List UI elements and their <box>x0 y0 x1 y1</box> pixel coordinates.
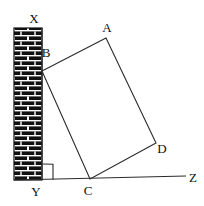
label-d: D <box>157 141 166 156</box>
label-y: Y <box>31 184 41 199</box>
figure-canvas: X B A D C Y Z <box>0 0 204 206</box>
label-z: Z <box>189 170 197 185</box>
label-c: C <box>84 183 93 198</box>
label-b: B <box>42 45 51 60</box>
geometry-diagram: X B A D C Y Z <box>0 0 204 206</box>
label-a: A <box>102 20 112 35</box>
leaning-rectangle <box>42 38 156 179</box>
right-angle-mark <box>43 164 53 180</box>
brick-wall <box>14 28 42 180</box>
label-x: X <box>29 11 39 26</box>
brick-wall-fill <box>14 28 42 180</box>
